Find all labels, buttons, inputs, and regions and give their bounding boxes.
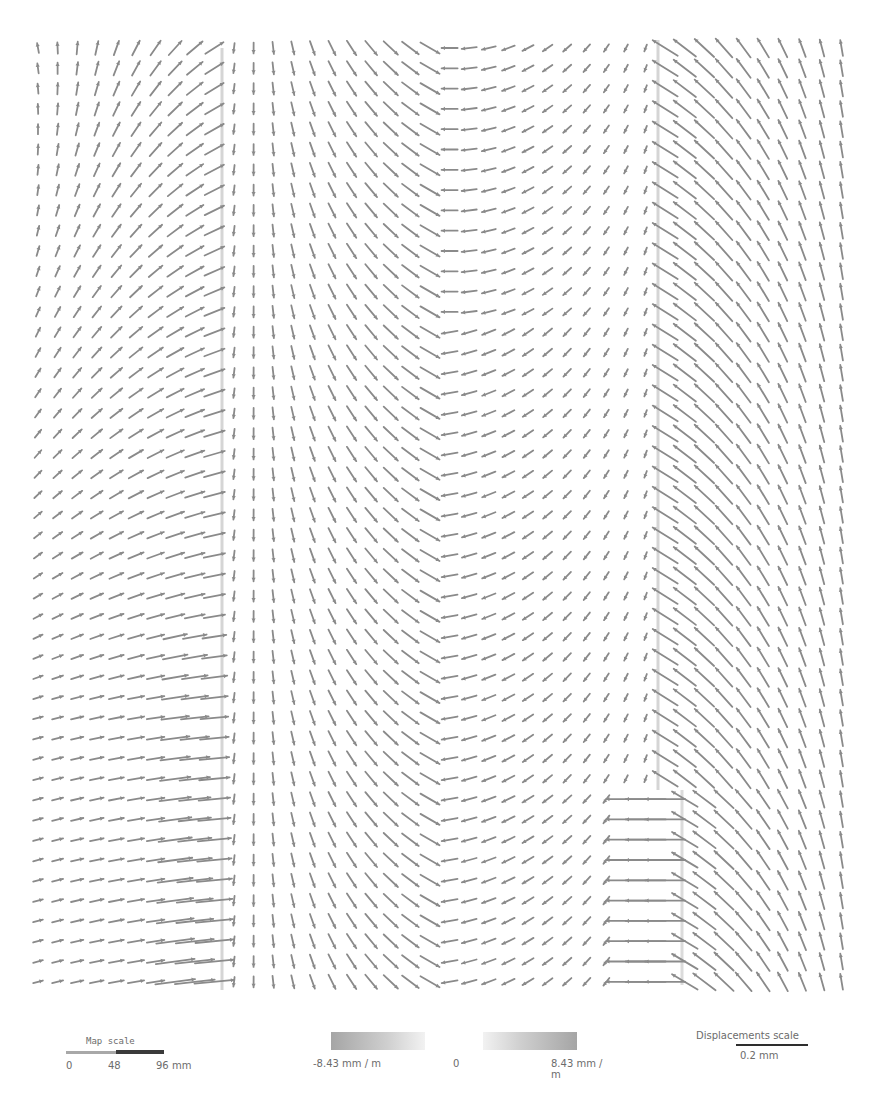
displacement-scale-value: 0.2 mm [740, 1050, 779, 1061]
colorbar-negative-gradient [331, 1032, 425, 1050]
map-scale-tick-96: 96 mm [156, 1060, 191, 1071]
colorbar-zero-label: 0 [453, 1058, 459, 1069]
displacement-scale-legend: Displacements scale 0.2 mm [690, 1030, 860, 1070]
map-scale-bar-dark [116, 1050, 164, 1054]
colorbar-max-label: 8.43 mm / m [551, 1058, 605, 1080]
map-scale-tick-48: 48 [108, 1060, 121, 1071]
displacement-scale-title: Displacements scale [696, 1030, 799, 1041]
colorbar-min-label: -8.43 mm / m [313, 1058, 381, 1069]
vector-field-plot [0, 0, 876, 1010]
strain-colorbar: -8.43 mm / m 0 8.43 mm / m [305, 1030, 605, 1074]
map-scale-legend: Map scale 0 48 96 mm [62, 1036, 212, 1076]
map-scale-title: Map scale [86, 1036, 135, 1046]
map-scale-bar-light [66, 1051, 116, 1054]
map-scale-tick-0: 0 [66, 1060, 72, 1071]
displacement-scale-bar [736, 1044, 808, 1046]
colorbar-positive-gradient [483, 1032, 577, 1050]
